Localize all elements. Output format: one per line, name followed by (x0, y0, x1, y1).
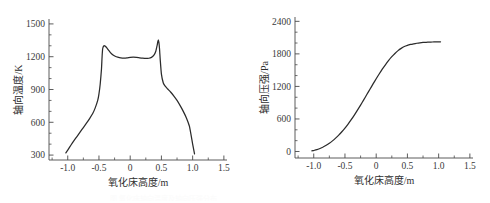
y-tick-label: 2400 (272, 17, 291, 27)
x-axis: -1.0-0.500.51.01.5 (298, 154, 476, 172)
x-tick-label: -0.5 (91, 163, 106, 173)
y-tick-label: 600 (31, 118, 46, 128)
x-axis-title: 氧化床高度/m (108, 176, 169, 188)
x-axis-title: 氧化床高度/m (354, 174, 415, 186)
y-tick-label: 300 (31, 150, 46, 160)
x-axis: -1.0-0.500.51.01.5 (52, 156, 230, 174)
x-tick-label: 1.5 (218, 163, 230, 173)
plot-area: -1.0-0.500.51.01.530060090012001500 (26, 19, 230, 173)
x-tick-label: 0.5 (401, 161, 413, 171)
axial-pressure-chart: -1.0-0.500.51.01.50600120018002400氧化床高度/… (245, 0, 490, 203)
axial-temperature-chart: -1.0-0.500.51.01.530060090012001500氧化床高度… (0, 0, 245, 203)
y-tick-label: 1800 (272, 49, 291, 59)
x-tick-label: 1.5 (464, 161, 476, 171)
figure-root: -1.0-0.500.51.01.530060090012001500氧化床高度… (0, 0, 490, 203)
chart-panel-axial-temperature: -1.0-0.500.51.01.530060090012001500氧化床高度… (0, 0, 245, 203)
y-tick-label: 1200 (26, 52, 45, 62)
chart-panel-axial-pressure: -1.0-0.500.51.01.50600120018002400氧化床高度/… (245, 0, 490, 203)
x-tick-label: -1.0 (306, 161, 321, 171)
x-tick-label: 0.5 (155, 163, 167, 173)
x-tick-label: -1.0 (60, 163, 75, 173)
x-tick-label: 0 (128, 163, 133, 173)
x-tick-label: -0.5 (337, 161, 352, 171)
plot-area: -1.0-0.500.51.01.50600120018002400 (272, 17, 476, 171)
y-tick-label: 1500 (26, 19, 45, 29)
data-series-axial-pressure (312, 42, 441, 151)
data-series-axial-temperature (66, 40, 195, 154)
x-tick-label: 0 (374, 161, 379, 171)
y-tick-label: 0 (286, 147, 291, 157)
y-axis-title: 轴向压强/Pa (258, 61, 270, 114)
y-tick-label: 1200 (272, 82, 291, 92)
y-tick-label: 900 (31, 85, 46, 95)
x-tick-label: 1.0 (433, 161, 445, 171)
figure-caption-faint: 图 氧化床轴向温度及轴向压强分布 (110, 193, 390, 201)
axis-spines (295, 17, 473, 158)
x-tick-label: 1.0 (187, 163, 199, 173)
y-axis-title: 轴向温度/K (12, 64, 24, 115)
y-tick-label: 600 (277, 114, 292, 124)
